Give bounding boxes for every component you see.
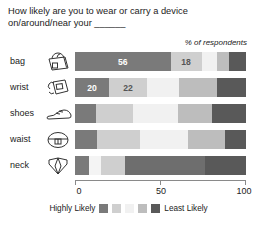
legend-swatch-highly-likely <box>99 204 108 213</box>
bar-segment-likely <box>96 104 134 123</box>
belt-icon <box>44 129 72 151</box>
bar-value-label: 20 <box>75 78 109 97</box>
stacked-bar-bag: 56 18 <box>75 52 246 71</box>
legend-swatch-unlikely <box>138 204 147 213</box>
chart-title: How likely are you to wear or carry a de… <box>8 5 248 30</box>
x-axis-tick-0 <box>75 180 76 185</box>
bar-segment-least-likely <box>229 52 246 71</box>
bar-segment-unlikely <box>217 52 229 71</box>
bar-segment-likely: 22 <box>109 78 147 97</box>
bar-segment-highly-likely: 20 <box>75 78 109 97</box>
chart-row-bag: bag 56 18 <box>0 50 257 76</box>
bar-segment-least-likely <box>225 130 246 149</box>
x-axis-tick-100 <box>245 180 246 185</box>
bar-segment-likely <box>97 130 140 149</box>
bar-segment-likely: 18 <box>171 52 202 71</box>
stacked-bar-shoes <box>75 104 246 123</box>
bar-value-label: 18 <box>171 52 202 71</box>
legend-swatch-neutral <box>125 204 134 213</box>
bar-segment-unlikely <box>188 130 226 149</box>
bar-segment-neutral <box>101 156 125 175</box>
stacked-bar-waist <box>75 130 246 149</box>
shoe-icon <box>44 103 72 125</box>
x-axis-label-0: 0 <box>64 186 94 196</box>
chart-container: How likely are you to wear or carry a de… <box>0 0 257 225</box>
chart-row-shoes: shoes <box>0 102 257 128</box>
bar-segment-likely <box>89 156 101 175</box>
bar-segment-neutral <box>147 78 179 97</box>
chart-row-wrist: wrist 20 22 <box>0 76 257 102</box>
bar-segment-neutral <box>202 52 217 71</box>
legend-swatch-likely <box>112 204 121 213</box>
bag-icon <box>44 51 72 73</box>
bar-segment-unlikely <box>178 104 212 123</box>
bar-segment-neutral <box>140 130 188 149</box>
bar-segment-least-likely <box>212 104 246 123</box>
wrist-watch-icon <box>44 77 72 99</box>
legend-swatch-least-likely <box>151 204 160 213</box>
units-note: % of respondents <box>185 38 247 47</box>
x-axis-tick-50 <box>160 180 161 185</box>
bar-segment-unlikely <box>125 156 205 175</box>
chart-row-waist: waist <box>0 128 257 154</box>
bar-segment-highly-likely <box>75 130 97 149</box>
bar-segment-highly-likely <box>75 156 89 175</box>
plot-area: bag 56 18 <box>0 50 257 178</box>
bar-segment-least-likely <box>205 156 246 175</box>
x-axis-label-50: 50 <box>146 186 176 196</box>
x-axis-label-100: 100 <box>229 186 257 196</box>
bar-segment-highly-likely: 56 <box>75 52 171 71</box>
chart-row-neck: neck <box>0 154 257 180</box>
stacked-bar-neck <box>75 156 246 175</box>
bar-segment-least-likely <box>217 78 246 97</box>
bar-segment-highly-likely <box>75 104 96 123</box>
collar-icon <box>44 155 72 177</box>
bar-segment-unlikely <box>179 78 217 97</box>
bar-value-label: 56 <box>75 52 171 71</box>
chart-legend: Highly Likely Least Likely <box>0 201 257 215</box>
legend-label-least-likely: Least Likely <box>164 204 207 213</box>
legend-label-highly-likely: Highly Likely <box>49 204 95 213</box>
bar-segment-neutral <box>133 104 177 123</box>
bar-value-label: 22 <box>109 78 147 97</box>
stacked-bar-wrist: 20 22 <box>75 78 246 97</box>
